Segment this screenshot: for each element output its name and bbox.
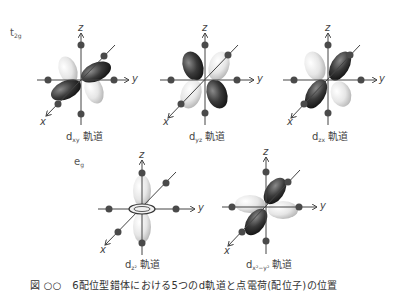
axis-label-x: x — [287, 116, 293, 127]
axis-label-z: z — [139, 149, 144, 160]
axis-label-y: y — [198, 202, 204, 213]
group-label-t2g: t2g — [10, 27, 22, 39]
orbital-dyz — [160, 33, 254, 125]
orbital-dz2 — [98, 160, 195, 255]
orbital-dx2-y2 — [222, 157, 317, 254]
axis-label-z: z — [202, 22, 207, 33]
axis-label-x: x — [163, 116, 169, 127]
axis-label-z: z — [78, 22, 83, 33]
axis-label-x: x — [100, 244, 106, 255]
orbital-label-dyz: dyz 軌道 — [189, 128, 225, 143]
figure-caption: 図 ○○ 6配位型錯体における5つのd軌道と点電荷(配位子)の位置 — [30, 277, 337, 292]
axis-label-y: y — [132, 73, 138, 84]
orbital-dxy — [37, 33, 129, 125]
orbital-label-dz2: dz² 軌道 — [125, 256, 160, 271]
axis-label-y: y — [257, 73, 263, 84]
axis-label-x: x — [224, 245, 230, 256]
orbital-label-dx2-y2: dx²−y² 軌道 — [246, 256, 293, 271]
axis-label-z: z — [325, 22, 330, 33]
orbital-label-dxy: dxy 軌道 — [66, 128, 103, 143]
orbital-dzx — [283, 33, 377, 125]
axis-label-z: z — [263, 146, 268, 157]
group-label-eg: eg — [74, 156, 84, 168]
axis-label-y: y — [320, 200, 326, 211]
axis-label-y: y — [379, 73, 385, 84]
axis-label-x: x — [40, 116, 46, 127]
orbital-label-dzx: dzx 軌道 — [312, 128, 348, 143]
